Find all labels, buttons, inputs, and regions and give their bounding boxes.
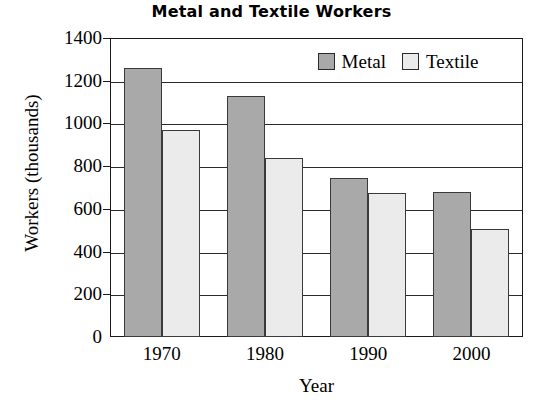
bar-textile-2000	[471, 229, 509, 337]
y-axis-tick-mark	[103, 252, 110, 253]
y-axis-tick-mark	[103, 81, 110, 82]
legend-swatch-textile-icon	[402, 53, 419, 70]
bar-metal-1970	[124, 68, 162, 337]
chart-title: Metal and Textile Workers	[0, 2, 543, 21]
bar-chart: Metal and Textile Workers Workers (thous…	[0, 0, 543, 404]
y-axis-tick-label: 1200	[28, 71, 102, 90]
x-axis-tick-label: 1980	[213, 344, 316, 363]
y-axis-tick-label: 600	[28, 199, 102, 218]
y-axis-tick-mark	[103, 38, 110, 39]
legend-label: Textile	[426, 52, 478, 71]
y-axis-tick-mark	[103, 209, 110, 210]
x-axis-tick-label: 1970	[110, 344, 213, 363]
y-axis-tick-label: 400	[28, 242, 102, 261]
y-axis-tick-label: 800	[28, 156, 102, 175]
bar-metal-1980	[227, 96, 265, 337]
bar-metal-1990	[330, 178, 368, 337]
bar-metal-2000	[433, 192, 471, 337]
bar-textile-1980	[265, 158, 303, 337]
legend-label: Metal	[342, 52, 386, 71]
y-axis-tick-mark	[103, 166, 110, 167]
y-axis-tick-mark	[103, 294, 110, 295]
y-axis-tick-mark	[103, 123, 110, 124]
legend-entry-textile: Textile	[402, 52, 478, 71]
y-axis-tick-label: 0	[28, 327, 102, 346]
y-axis-tick-label: 200	[28, 284, 102, 303]
y-axis-tick-label: 1000	[28, 113, 102, 132]
legend-swatch-metal-icon	[318, 53, 335, 70]
bar-textile-1990	[368, 193, 406, 337]
y-axis-tick-label: 1400	[28, 28, 102, 47]
bar-textile-1970	[162, 130, 200, 337]
x-axis-tick-label: 1990	[317, 344, 420, 363]
x-axis-tick-label: 2000	[420, 344, 523, 363]
bars-layer	[110, 38, 523, 337]
legend-entry-metal: Metal	[318, 52, 386, 71]
chart-legend: MetalTextile	[285, 44, 511, 78]
x-axis-title: Year	[110, 375, 523, 397]
